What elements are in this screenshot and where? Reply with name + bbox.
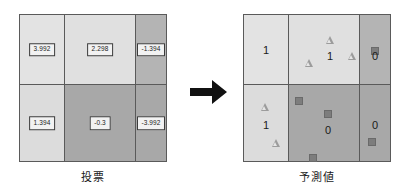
square-marker: [324, 110, 332, 118]
square-marker: [295, 97, 303, 105]
vote-panel: 3.992 2.298 -1.394 1.394 -0.3 -3.992: [19, 14, 167, 162]
vote-value-r0c1: 2.298: [87, 43, 113, 57]
triangle-marker: [261, 103, 269, 111]
comparison-figure: 3.992 2.298 -1.394 1.394 -0.3 -3.992: [0, 0, 407, 194]
vote-cell-r1c1: -0.3: [65, 85, 136, 161]
triangle-marker: [348, 52, 356, 60]
vote-value-r1c2: -3.992: [137, 116, 165, 130]
arrow-right-icon: [190, 79, 228, 105]
prediction-panel-caption: 予測値: [243, 168, 391, 184]
vote-value-r0c2: -1.394: [137, 43, 165, 57]
triangle-marker: [305, 59, 313, 67]
vote-panel-caption: 投票: [19, 168, 167, 184]
prediction-label-r0c0: 1: [263, 45, 269, 56]
vote-value-r0c0: 3.992: [29, 43, 55, 57]
vote-cell-r0c2: -1.394: [136, 15, 166, 85]
prediction-label-r1c0: 1: [263, 120, 269, 131]
prediction-label-r1c1: 0: [325, 125, 331, 136]
prediction-grid: 1 1 0 1 0 0: [243, 14, 391, 162]
vote-cell-r1c2: -3.992: [136, 85, 166, 161]
vote-cell-r0c1: 2.298: [65, 15, 136, 85]
triangle-marker: [326, 36, 334, 44]
triangle-marker: [272, 139, 280, 147]
vote-value-r1c0: 1.394: [29, 116, 55, 130]
square-marker: [368, 138, 376, 146]
prediction-cell-r0c1: [289, 15, 360, 85]
prediction-panel: 1 1 0 1 0 0: [243, 14, 391, 162]
prediction-label-r1c2: 0: [372, 120, 378, 131]
vote-cell-r1c0: 1.394: [20, 85, 65, 161]
prediction-label-r0c1: 1: [327, 51, 333, 62]
vote-value-r1c1: -0.3: [90, 116, 111, 130]
vote-cell-r0c0: 3.992: [20, 15, 65, 85]
square-marker: [309, 154, 317, 162]
prediction-label-r0c2: 0: [372, 51, 378, 62]
vote-grid: 3.992 2.298 -1.394 1.394 -0.3 -3.992: [19, 14, 167, 162]
